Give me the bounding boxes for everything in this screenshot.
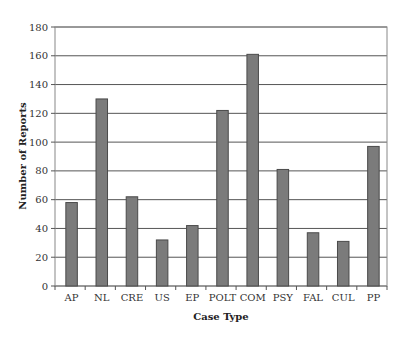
bar-us [156,240,168,286]
y-tick-label: 0 [42,281,48,292]
bar-cre [126,197,138,286]
y-tick-label: 140 [29,79,48,90]
x-tick-label: FAL [303,292,323,303]
bar-fal [307,233,319,286]
y-tick-label: 180 [29,22,48,33]
bar-nl [96,99,108,286]
y-axis-title: Number of Reports [17,102,28,210]
x-axis-title: Case Type [193,311,248,322]
x-tick-label: POLT [209,292,237,303]
bar-pp [368,146,380,286]
y-axis-ticks: 020406080100120140160180 [29,22,55,292]
y-tick-label: 160 [29,50,48,61]
y-tick-label: 100 [29,137,48,148]
x-axis-ticks: APNLCREUSEPPOLTCOMPSYFALCULPP [55,286,387,303]
bar-cul [337,241,349,286]
x-tick-label: EP [185,292,199,303]
bar-polt [217,110,229,286]
bar-ep [187,226,199,286]
bar-com [247,54,259,286]
x-tick-label: NL [94,292,110,303]
x-tick-label: PP [367,292,381,303]
x-tick-label: CUL [332,292,355,303]
bar-chart: 020406080100120140160180 APNLCREUSEPPOLT… [0,0,410,338]
bar-psy [277,169,289,286]
x-tick-label: PSY [273,292,294,303]
y-tick-label: 120 [29,108,48,119]
y-tick-label: 40 [35,223,48,234]
y-tick-label: 60 [35,194,48,205]
y-tick-label: 20 [35,252,48,263]
x-tick-label: US [154,292,169,303]
y-tick-label: 80 [35,165,48,176]
x-tick-label: AP [64,292,79,303]
bar-ap [66,203,78,286]
x-tick-label: CRE [121,292,143,303]
x-tick-label: COM [240,292,266,303]
bar-series [66,54,379,286]
